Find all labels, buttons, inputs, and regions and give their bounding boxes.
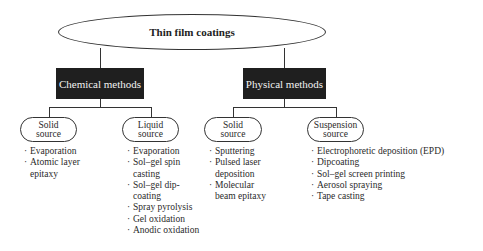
physical-solid-items: Sputtering Pulsed laser deposition Molec…: [209, 146, 271, 202]
list-item: Sol–gel spin casting: [127, 157, 197, 180]
list-item: Sputtering: [209, 146, 271, 157]
physical-suspension-source-pill: Suspension source: [307, 117, 364, 142]
chemical-methods-box: Chemical methods: [56, 68, 144, 99]
connector-physical-suspension: [336, 107, 337, 117]
physical-methods-label: Physical methods: [246, 78, 323, 90]
chemical-solid-items: Evaporation Atomic layer epitaxy: [24, 146, 84, 180]
list-item: Dipcoating: [311, 157, 481, 168]
list-item: Pulsed laser deposition: [209, 157, 271, 180]
physical-suspension-items: Electrophoretic deposition (EPD) Dipcoat…: [311, 146, 481, 202]
connector-root-chemical: [100, 48, 101, 68]
list-item: Anodic oxidation: [127, 225, 209, 236]
connector-chemical-liquid: [151, 107, 152, 117]
connector-chemical-solid: [49, 107, 50, 117]
chemical-liquid-items: Evaporation Sol–gel spin casting Sol–gel…: [127, 146, 209, 236]
source-label-line2: source: [138, 130, 163, 139]
connector-physical-horizontal: [233, 107, 336, 108]
chemical-solid-source-pill: Solid source: [20, 117, 77, 142]
connector-physical-solid: [233, 107, 234, 117]
root-label: Thin film coatings: [149, 26, 235, 38]
physical-solid-source-pill: Solid source: [204, 117, 262, 142]
physical-methods-box: Physical methods: [243, 68, 326, 99]
connector-root-physical: [284, 48, 285, 68]
list-item: Aerosol spraying: [311, 180, 481, 191]
connector-chemical-horizontal: [49, 107, 151, 108]
source-label-line2: source: [323, 130, 348, 139]
list-item: Spray pyrolysis: [127, 202, 209, 213]
list-item: Gel oxidation: [127, 214, 209, 225]
root-node-ellipse: Thin film coatings: [58, 14, 326, 50]
list-item: Tape casting: [311, 191, 481, 202]
list-item: Molecular beam epitaxy: [209, 180, 271, 203]
list-item: Electrophoretic deposition (EPD): [311, 146, 481, 157]
chemical-methods-label: Chemical methods: [59, 78, 141, 90]
source-label-line2: source: [36, 130, 61, 139]
list-item: Sol–gel screen printing: [311, 169, 481, 180]
list-item: Evaporation: [24, 146, 84, 157]
list-item: Atomic layer epitaxy: [24, 157, 84, 180]
source-label-line2: source: [221, 130, 246, 139]
list-item: Sol–gel dip-coating: [127, 180, 193, 203]
chemical-liquid-source-pill: Liquid source: [122, 117, 179, 142]
list-item: Evaporation: [127, 146, 209, 157]
